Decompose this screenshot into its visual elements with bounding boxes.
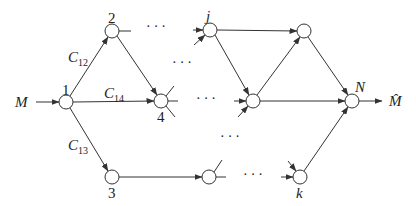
ellipsis-top: ··· <box>146 20 169 34</box>
edge-top-right-to-N <box>308 37 348 95</box>
edge-label-c12: C12 <box>68 50 88 65</box>
network-diagram: M 1 2 j 4 N 3 k M̂ C12 C14 C13 ··· ··· ·… <box>0 0 416 206</box>
edge-into-k-b <box>288 161 296 171</box>
node-4 <box>154 94 168 108</box>
output-label: M̂ <box>389 94 402 109</box>
node-mid <box>246 94 260 108</box>
input-label: M <box>15 95 28 110</box>
node-lower-mid <box>202 170 216 184</box>
edge-k-to-N <box>304 107 348 171</box>
edge-4-stub-down <box>166 106 175 117</box>
edge-into-mid-b <box>238 106 248 117</box>
node-4-label: 4 <box>157 110 165 125</box>
edge-j-to-mid <box>215 35 249 95</box>
edge-mid-to-top-right <box>257 37 300 95</box>
node-2-label: 2 <box>108 11 116 26</box>
node-1-label: 1 <box>62 83 70 98</box>
edge-label-c13: C13 <box>68 138 88 153</box>
ellipsis-lower-mid: ··· <box>220 130 243 144</box>
node-3 <box>105 170 119 184</box>
edge-lower-mid-stub-up <box>214 160 222 172</box>
ellipsis-middle: ··· <box>196 92 219 106</box>
edge-4-stub-up <box>166 86 174 96</box>
node-top-right <box>297 24 311 38</box>
node-k <box>293 170 307 184</box>
node-N <box>345 94 359 108</box>
node-j-label: j <box>206 9 210 24</box>
node-k-label: k <box>296 186 303 201</box>
edge-1-to-2 <box>70 37 108 96</box>
ellipsis-upper-mid: ··· <box>172 56 195 70</box>
edge-label-c14: C14 <box>104 86 124 101</box>
node-3-label: 3 <box>108 186 116 201</box>
node-N-label: N <box>355 80 365 95</box>
node-j <box>203 23 217 37</box>
node-2 <box>105 24 119 38</box>
ellipsis-bottom: ··· <box>243 168 266 182</box>
edge-j-to-top-right <box>217 30 297 31</box>
edge-into-j-b <box>194 35 205 45</box>
